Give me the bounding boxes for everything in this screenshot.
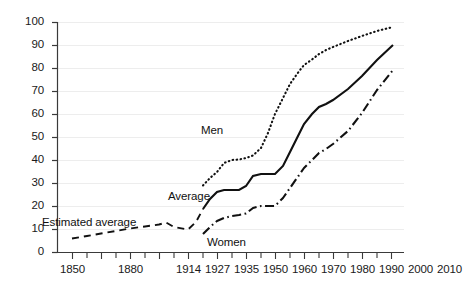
y-tick-label-10: 10 — [10, 222, 44, 234]
y-tick-label-90: 90 — [10, 38, 44, 50]
y-tick-label-30: 30 — [10, 176, 44, 188]
y-tick-label-60: 60 — [10, 107, 44, 119]
series-label-men: Men — [201, 124, 223, 136]
x-tick-label-1850: 1850 — [50, 263, 95, 275]
x-tick-label-1880: 1880 — [108, 263, 153, 275]
x-tick-label-2010: 2010 — [427, 263, 467, 275]
series-label-average: Average — [168, 190, 210, 202]
series-line-women — [203, 70, 393, 234]
y-tick-label-40: 40 — [10, 153, 44, 165]
y-tick-label-20: 20 — [10, 199, 44, 211]
y-tick-label-80: 80 — [10, 61, 44, 73]
series-line-men — [203, 27, 393, 186]
series-label-women: Women — [207, 236, 246, 248]
gridlines — [57, 23, 404, 230]
series-line-average — [203, 45, 393, 209]
x-axis-ticks — [73, 253, 392, 260]
series-label-estimated-average: Estimated average — [42, 216, 136, 228]
y-tick-label-100: 100 — [10, 15, 44, 27]
y-tick-label-0: 0 — [10, 245, 44, 257]
y-tick-label-70: 70 — [10, 84, 44, 96]
y-tick-label-50: 50 — [10, 130, 44, 142]
